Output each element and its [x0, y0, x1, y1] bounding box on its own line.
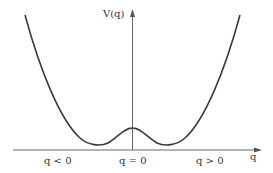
region-label-left: q < 0	[44, 156, 72, 166]
y-axis-label: V(q)	[103, 9, 124, 19]
y-axis-arrow-icon	[130, 9, 135, 17]
double-well-diagram: V(q) q q < 0 q = 0 q > 0	[0, 0, 273, 173]
x-axis-label: q	[250, 152, 256, 162]
region-label-right: q > 0	[196, 156, 224, 166]
region-label-center: q = 0	[119, 156, 147, 166]
diagram-canvas	[0, 0, 273, 173]
